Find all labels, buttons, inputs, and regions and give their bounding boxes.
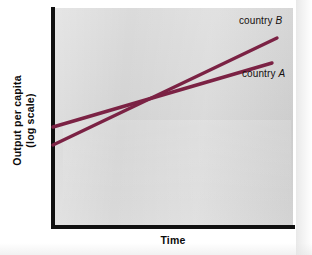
y-axis-label-line2: (log scale) (23, 57, 36, 185)
series-label-country-a: country A (242, 68, 285, 79)
series-label-country-a-text: country (242, 68, 276, 79)
growth-diagram-figure: country B country A Output per capita (l… (0, 0, 312, 255)
series-lines-layer (0, 0, 312, 255)
series-label-country-a-letter: A (278, 68, 285, 79)
series-line-country-a (53, 63, 272, 127)
series-line-country-b (53, 38, 277, 145)
y-axis-label-line1: Output per capita (11, 57, 24, 185)
x-axis-label: Time (53, 234, 293, 246)
series-label-country-b: country B (239, 15, 282, 26)
y-axis-label: Output per capita (log scale) (11, 57, 36, 185)
series-label-country-b-text: country (239, 15, 273, 26)
series-label-country-b-letter: B (275, 15, 282, 26)
